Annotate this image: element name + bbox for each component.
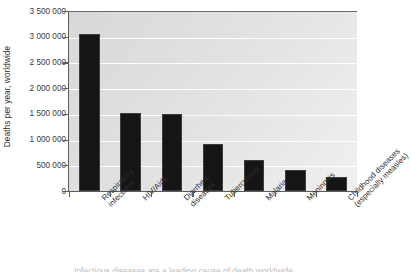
x-tick-label: Respiratoryinfections (100, 196, 113, 209)
plot-area (69, 11, 357, 191)
x-tick-label-line: infections (106, 203, 113, 210)
bottom-caption: Infectious diseases are a leading cause … (0, 266, 367, 272)
x-tick-label: Diarrhealdiseases (182, 196, 195, 209)
y-axis-tick-labels: 3 500 0003 000 0002 500 0002 000 0001 50… (14, 10, 66, 191)
y-tick-label: 2 500 000 (14, 57, 66, 66)
y-tick-label: 3 000 000 (14, 32, 66, 41)
y-tick-mark (63, 165, 69, 166)
bar (79, 34, 100, 191)
x-tick-mark (151, 192, 152, 197)
y-tick-mark (63, 11, 69, 12)
y-tick-label: 2 000 000 (14, 83, 66, 92)
y-tick-label: 500 000 (14, 160, 66, 169)
y-tick-label: 1 000 000 (14, 135, 66, 144)
y-tick-mark (63, 37, 69, 38)
bars-layer (69, 12, 357, 191)
y-tick-mark (63, 114, 69, 115)
y-tick-mark (63, 88, 69, 89)
x-tick-mark (234, 192, 235, 197)
y-axis-title-text: Deaths per year, worldwide (4, 45, 13, 146)
y-tick-label: 3 500 000 (14, 6, 66, 15)
x-tick-label: Tuberculosis (223, 196, 230, 203)
bottom-caption-text: Infectious diseases are a leading cause … (0, 266, 367, 272)
x-tick-label-line: (especially measles) (353, 203, 360, 210)
x-axis-tick-labels: RespiratoryinfectionsHIV/AidsDiarrhealdi… (0, 196, 367, 270)
x-tick-mark (275, 192, 276, 197)
x-tick-mark (316, 192, 317, 197)
x-tick-label: Malaria (264, 196, 271, 203)
x-tick-label: HIV/Aids (141, 196, 148, 203)
x-tick-label-line: diseases (188, 203, 195, 210)
x-tick-label: Childhood diseases(especially measles) (346, 196, 359, 209)
y-tick-mark (63, 62, 69, 63)
bar (285, 170, 306, 191)
x-tick-mark (69, 192, 70, 197)
y-tick-label: 1 500 000 (14, 109, 66, 118)
y-tick-label: 0 (14, 186, 66, 195)
x-tick-label: Meningitis (305, 196, 312, 203)
x-tick-mark (192, 192, 193, 197)
x-tick-mark (110, 192, 111, 197)
y-tick-mark (63, 140, 69, 141)
x-tick-mark (357, 192, 358, 197)
